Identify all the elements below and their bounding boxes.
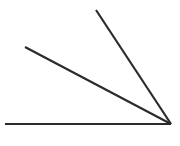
angle-figure-svg xyxy=(0,0,180,146)
figure-canvas xyxy=(0,0,180,146)
